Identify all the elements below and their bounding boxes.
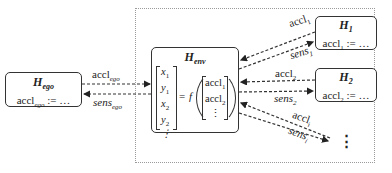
label-accl-ego: acclego bbox=[92, 68, 120, 83]
input-vector: accl1 accl2 ⋮ bbox=[205, 77, 225, 118]
edge-sens-i bbox=[239, 113, 328, 141]
diagram-canvas: Hego acclego := … Henv x1 y1 x2 y2 ⋮ = f… bbox=[0, 0, 392, 173]
node-h-1: H1 accl1 := … bbox=[315, 16, 377, 50]
node-h-env: Henv x1 y1 x2 y2 ⋮ = f accl1 accl2 ⋮ bbox=[151, 47, 239, 133]
right-bracket bbox=[173, 66, 177, 130]
node-h-2-title: H2 bbox=[316, 70, 376, 89]
node-h-1-body: accl1 := … bbox=[316, 37, 376, 55]
node-h-2-body: accl2 := … bbox=[316, 89, 376, 107]
label-sens-ego: sensego bbox=[93, 96, 122, 111]
state-vector: x1 y1 x2 y2 ⋮ bbox=[161, 66, 172, 138]
inner-right-bracket bbox=[224, 76, 228, 120]
equals-sign: = bbox=[179, 90, 185, 102]
node-h-ego: Hego acclego := … bbox=[5, 72, 82, 107]
function-f: f bbox=[189, 90, 192, 102]
env-equation: x1 y1 x2 y2 ⋮ = f accl1 accl2 ⋮ bbox=[156, 66, 236, 130]
node-h-ego-title: Hego bbox=[6, 75, 81, 94]
edge-accl-i bbox=[241, 103, 330, 138]
more-nodes-ellipsis: ⋮ bbox=[339, 132, 354, 150]
node-h-2: H2 accl2 := … bbox=[315, 68, 377, 102]
label-sens-2: sens2 bbox=[274, 92, 296, 107]
node-h-1-title: H1 bbox=[316, 18, 376, 37]
label-accl-2: accl2 bbox=[275, 67, 296, 82]
left-bracket bbox=[156, 66, 160, 130]
node-h-ego-body: acclego := … bbox=[6, 94, 81, 112]
